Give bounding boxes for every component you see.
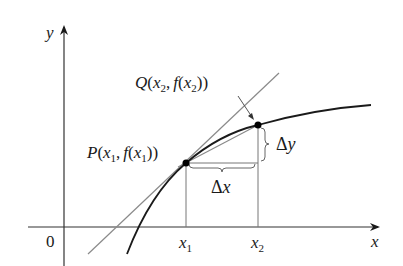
y-axis-label: y xyxy=(44,23,54,42)
point-p-label: P(x1,f(x1)) xyxy=(86,143,158,164)
x2-tick-label: x2 xyxy=(250,233,264,254)
dx-brace xyxy=(189,164,255,172)
point-q xyxy=(255,122,262,129)
curve-f xyxy=(127,105,371,254)
x1-tick-label: x1 xyxy=(178,233,192,254)
point-q-label: Q(x2,f(x2)) xyxy=(135,73,208,94)
delta-y-label: Δy xyxy=(276,134,296,154)
secant-diagram: y x 0 x1 x2 Δx Δy P(x1,f(x1)) Q(x2,f(x2)… xyxy=(0,0,403,266)
q-pointer-arrow xyxy=(238,96,252,117)
origin-label: 0 xyxy=(46,232,55,251)
delta-x-label: Δx xyxy=(211,177,231,197)
q-pointer-arrowhead xyxy=(248,113,254,120)
dy-brace xyxy=(261,128,269,161)
x-axis-label: x xyxy=(370,232,379,251)
point-p xyxy=(183,160,190,167)
